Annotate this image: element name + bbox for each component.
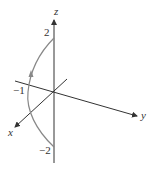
curve-arc <box>28 38 54 147</box>
3d-axes-diagram: z y x 2 −2 −1 <box>0 0 153 171</box>
y-axis-label: y <box>141 110 146 121</box>
z-axis-label: z <box>54 6 58 17</box>
y-tick-negative-1: −1 <box>13 85 25 96</box>
z-tick-positive-2: 2 <box>44 27 50 38</box>
z-tick-negative-2: −2 <box>39 145 51 156</box>
x-axis-label: x <box>8 127 13 138</box>
